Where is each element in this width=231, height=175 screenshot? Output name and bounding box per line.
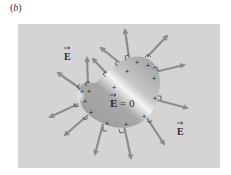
charge-plus: + (83, 98, 87, 105)
charge-plus: + (87, 88, 91, 95)
field-arrow (87, 58, 88, 85)
field-label-text: E (64, 51, 71, 62)
charge-plus: + (80, 88, 84, 95)
charge-plus: + (89, 109, 93, 116)
charge-plus: + (112, 84, 116, 91)
inside-label-text: E = 0 (110, 97, 135, 109)
charge-plus: + (124, 121, 128, 128)
charge-plus: + (146, 62, 150, 69)
charge-plus: + (105, 120, 109, 127)
charge-plus: + (142, 113, 146, 120)
charge-plus: + (125, 68, 129, 75)
conductor-field-diagram: + + + + + + + + + + + + + E = 0 E E (0, 0, 231, 175)
charge-plus: + (153, 95, 157, 102)
field-label-text: E (177, 126, 184, 137)
charge-plus: + (152, 75, 156, 82)
charge-plus: + (135, 59, 139, 66)
